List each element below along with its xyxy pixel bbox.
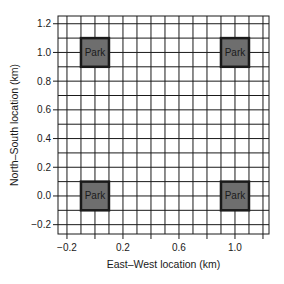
y-tick-label: 0.0 — [37, 190, 51, 201]
x-tick-label: −0.2 — [57, 242, 77, 253]
y-axis-title: North–South location (km) — [8, 64, 20, 186]
x-tick-label: 0.6 — [172, 242, 186, 253]
park-label: Park — [225, 47, 247, 58]
y-tick-label: 0.6 — [37, 104, 51, 115]
x-tick-label: 0.2 — [116, 242, 130, 253]
y-tick-label: 1.0 — [37, 47, 51, 58]
park-label: Park — [225, 190, 247, 201]
x-axis-title: East–West location (km) — [107, 258, 221, 270]
y-tick-label: 1.2 — [37, 18, 51, 29]
park-marker: Park — [81, 38, 109, 67]
y-tick-label: 0.4 — [37, 133, 51, 144]
y-axis-ticks: −0.20.00.20.40.60.81.01.2 — [31, 18, 58, 230]
y-tick-label: −0.2 — [31, 219, 51, 230]
y-tick-label: 0.8 — [37, 76, 51, 87]
street-grid-chart: ParkParkParkPark −0.20.20.61.0 −0.20.00.… — [0, 0, 284, 284]
x-tick-label: 1.0 — [228, 242, 242, 253]
park-marker: Park — [221, 182, 249, 211]
park-marker: Park — [81, 182, 109, 211]
x-axis-ticks: −0.20.20.61.0 — [57, 234, 263, 253]
y-tick-label: 0.2 — [37, 162, 51, 173]
park-label: Park — [85, 47, 107, 58]
park-marker: Park — [221, 38, 249, 67]
park-label: Park — [85, 190, 107, 201]
